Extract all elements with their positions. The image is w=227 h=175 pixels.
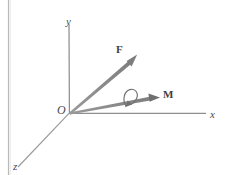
diagram-canvas [0, 0, 227, 175]
force-vector-label: F [116, 44, 123, 55]
scan-line-artifact [9, 0, 11, 175]
z-axis [18, 113, 69, 167]
origin-label: O [57, 104, 66, 116]
x-axis-label: x [210, 109, 215, 120]
moment-vector-label: M [163, 89, 173, 100]
vector-diagram: y x z O F M [0, 0, 227, 175]
z-axis-label: z [13, 161, 17, 172]
y-axis-label: y [66, 16, 71, 27]
